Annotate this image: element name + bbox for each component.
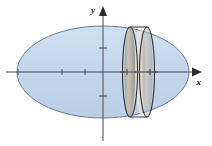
ellipsoid-disk-figure: y x (0, 0, 212, 146)
x-axis-label: x (196, 77, 202, 87)
